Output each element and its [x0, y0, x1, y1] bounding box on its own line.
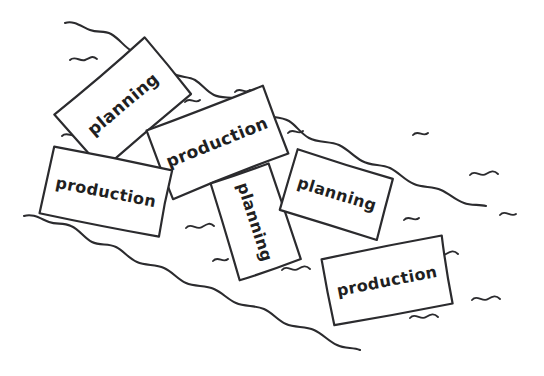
ripple-mark: [470, 171, 498, 175]
ripple-mark: [500, 213, 516, 215]
ripple-mark: [472, 296, 500, 300]
ripple-mark: [213, 259, 228, 261]
ripple-mark: [413, 133, 428, 135]
ripple-mark: [185, 100, 200, 102]
card-planning[interactable]: planning: [279, 149, 395, 240]
card-production[interactable]: production: [321, 235, 455, 326]
lower-bank-line: [24, 215, 360, 350]
ripple-mark: [70, 57, 97, 60]
card-layer: planningproductionproductionplanningplan…: [39, 37, 454, 326]
stream-sketch-illustration: planningproductionproductionplanningplan…: [0, 0, 544, 376]
ripple-mark: [186, 224, 214, 228]
sketch-canvas: planningproductionproductionplanningplan…: [0, 0, 544, 376]
ripple-mark: [282, 266, 310, 270]
ripple-mark: [410, 314, 438, 318]
ripple-mark: [404, 218, 419, 220]
